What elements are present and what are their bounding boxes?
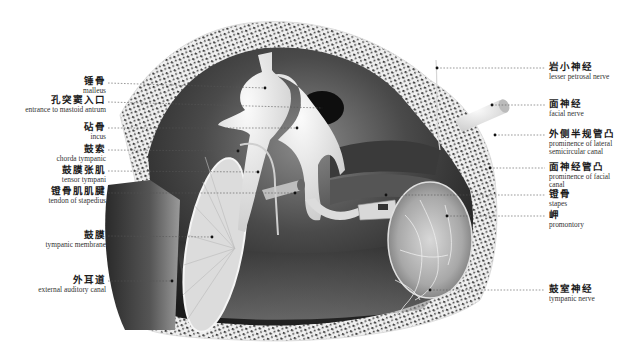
external-canal (105, 180, 180, 330)
label-external-auditory-canal: 外耳道 external auditory canal (28, 276, 106, 294)
label-promontory: 岬 promontory (549, 211, 584, 229)
label-incus: 砧骨 incus (84, 123, 106, 141)
label-stapedius-tendon: 镫骨肌肌腱 tendon of stapedius (49, 187, 106, 205)
label-facial-nerve: 面神经 facial nerve (549, 100, 584, 118)
label-stapes: 镫骨 stapes (549, 190, 571, 208)
label-mastoid-antrum-entrance: 孔突窦入口 entrance to mastoid antrum (6, 96, 106, 114)
label-chorda-tympani: 鼓索 chorda tympanic (57, 145, 106, 163)
label-lateral-semicircular-prominence: 外侧半规管凸 prominence of lateral semicircula… (549, 130, 631, 156)
label-tensor-tympani: 鼓膜张肌 tensor tympani (62, 166, 106, 184)
label-malleus: 锤骨 malleus (83, 77, 106, 95)
label-facial-canal-prominence: 面神经管凸 prominence of facial canal (549, 163, 619, 189)
label-tympanic-membrane: 鼓膜 tympanic membrane (45, 231, 106, 249)
middle-ear-diagram: 锤骨 malleus 孔突窦入口 entrance to mastoid ant… (0, 0, 632, 355)
label-lesser-petrosal-nerve: 岩小神经 lesser petrosal nerve (549, 63, 619, 81)
label-tympanic-nerve: 鼓室神经 tympanic nerve (549, 285, 595, 303)
